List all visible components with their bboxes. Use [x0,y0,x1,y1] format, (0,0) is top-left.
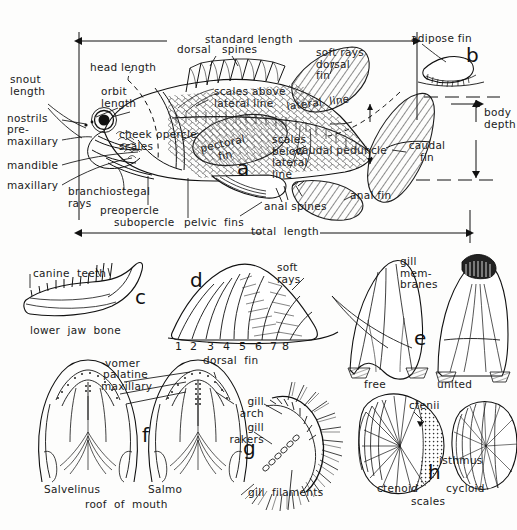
caudal-fin [368,93,435,202]
ray-number-1: 1 [175,340,182,353]
anal-fin [292,181,363,221]
lower-jaw-c [24,263,143,316]
panel-letter-h: h [428,462,441,482]
ray-number-8: 8 [282,340,289,353]
pelvic-fins [212,175,288,202]
panel-letter-a: a [237,158,249,178]
ray-number-3: 3 [207,340,214,353]
gill-arch-g [241,382,343,511]
panel-letter-e: e [414,328,426,348]
ray-number-4: 4 [223,340,230,353]
ray-number-7: 7 [270,340,277,353]
figure-canvas: standard length total length body depth … [0,0,517,530]
ray-number-2: 2 [190,340,197,353]
roof-of-mouth-f [39,360,248,482]
soft-dorsal-fin [292,47,369,112]
panel-letter-d: d [190,270,203,290]
panel-letter-c: c [135,287,146,307]
panel-letter-b: b [466,45,479,65]
panel-letter-g: g [243,438,256,458]
panel-letter-f: f [142,425,149,445]
figure-lineart [0,0,517,530]
ray-number-6: 6 [255,340,262,353]
ray-number-5: 5 [239,340,246,353]
